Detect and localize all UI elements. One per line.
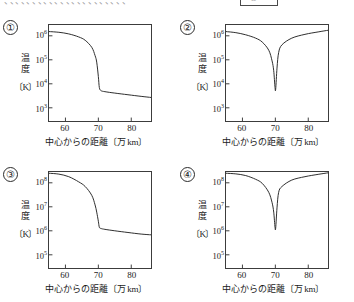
y-tick-label: 105 (213, 251, 225, 261)
x-tick-label: 60 (60, 123, 69, 133)
option-number-badge[interactable]: ③ (3, 167, 18, 182)
y-tick-label: 106 (36, 226, 48, 236)
y-tick-label: 103 (36, 104, 48, 114)
y-tick-label: 103 (213, 104, 225, 114)
y-tick-label: 108 (36, 177, 48, 187)
x-tick-label: 70 (271, 123, 280, 133)
answer-choice-panel[interactable]: ②温度〔K〕106105104103607080中心からの距離〔万 km〕 (177, 9, 354, 155)
y-tick-label: 108 (213, 177, 225, 187)
x-axis-title: 中心からの距離〔万 km〕 (16, 135, 176, 148)
x-tick-label: 60 (60, 270, 69, 280)
y-tick-label: 107 (213, 202, 225, 212)
x-axis-unit: 〔万 km〕 (285, 137, 324, 147)
cropped-top-strip: 、、、、、、、、、、、、、、、、、、、、、、 ⑤ (0, 0, 354, 9)
x-axis-title-text: 中心からの距離 (222, 137, 285, 147)
x-axis-title-text: 中心からの距離 (45, 284, 108, 294)
x-axis-title-text: 中心からの距離 (45, 137, 108, 147)
y-tick-label: 105 (213, 55, 225, 65)
y-tick-label: 104 (36, 79, 48, 89)
plot-area (225, 171, 329, 269)
y-tick-label: 106 (213, 30, 225, 40)
temperature-curve (226, 30, 328, 91)
x-tick-label-group: 607080 (48, 270, 152, 282)
temperature-curve (226, 173, 328, 230)
cropped-answer-box-label: ⑤ (250, 0, 257, 3)
plot-area (225, 24, 329, 122)
answer-choice-grid: ①温度〔K〕106105104103607080中心からの距離〔万 km〕②温度… (0, 9, 354, 302)
x-axis-unit: 〔万 km〕 (108, 284, 147, 294)
temperature-curve (49, 173, 151, 235)
y-tick-label: 107 (36, 202, 48, 212)
x-tick-label: 80 (127, 123, 136, 133)
option-number-badge[interactable]: ① (3, 20, 18, 35)
x-axis-title: 中心からの距離〔万 km〕 (16, 282, 176, 295)
x-tick-label-group: 607080 (225, 270, 329, 282)
answer-choice-panel[interactable]: ④温度〔K〕108107106105607080中心からの距離〔万 km〕 (177, 156, 354, 302)
cropped-answer-box (240, 0, 278, 6)
x-tick-label: 60 (237, 270, 246, 280)
answer-choice-panel[interactable]: ①温度〔K〕106105104103607080中心からの距離〔万 km〕 (0, 9, 177, 155)
x-tick-label: 80 (304, 270, 313, 280)
temperature-curve (49, 32, 151, 98)
answer-choice-panel[interactable]: ③温度〔K〕108107106105607080中心からの距離〔万 km〕 (0, 156, 177, 302)
x-tick-label: 80 (304, 123, 313, 133)
x-axis-unit: 〔万 km〕 (108, 137, 147, 147)
y-tick-label: 105 (36, 251, 48, 261)
cropped-question-text: 、、、、、、、、、、、、、、、、、、、、、、 (4, 0, 131, 7)
x-axis-title: 中心からの距離〔万 km〕 (193, 135, 353, 148)
y-tick-label-group: 108107106105 (24, 156, 47, 302)
y-tick-label: 106 (213, 226, 225, 236)
x-tick-label: 80 (127, 270, 136, 280)
y-tick-label-group: 106105104103 (201, 9, 224, 155)
y-tick-label: 105 (36, 55, 48, 65)
x-axis-unit: 〔万 km〕 (285, 284, 324, 294)
y-tick-label: 104 (213, 79, 225, 89)
y-tick-label: 106 (36, 30, 48, 40)
option-number-badge[interactable]: ④ (180, 167, 195, 182)
y-tick-label-group: 108107106105 (201, 156, 224, 302)
x-tick-label: 60 (237, 123, 246, 133)
x-axis-title: 中心からの距離〔万 km〕 (193, 282, 353, 295)
y-tick-label-group: 106105104103 (24, 9, 47, 155)
plot-area (48, 171, 152, 269)
option-number-badge[interactable]: ② (180, 20, 195, 35)
x-tick-label-group: 607080 (225, 123, 329, 135)
x-axis-title-text: 中心からの距離 (222, 284, 285, 294)
x-tick-label: 70 (271, 270, 280, 280)
x-tick-label: 70 (94, 270, 103, 280)
plot-area (48, 24, 152, 122)
x-tick-label: 70 (94, 123, 103, 133)
x-tick-label-group: 607080 (48, 123, 152, 135)
